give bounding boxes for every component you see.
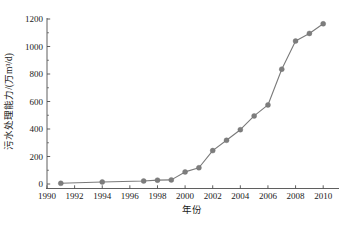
data-point-marker (169, 177, 174, 182)
data-point-marker (265, 102, 270, 107)
y-axis (47, 18, 50, 188)
data-point-marker (252, 113, 257, 118)
data-point-marker (196, 165, 201, 170)
y-tick-label: 0 (39, 179, 44, 189)
x-tick-label: 1994 (93, 191, 112, 201)
x-tick-label: 2008 (287, 191, 306, 201)
x-tick-label: 1990 (38, 191, 57, 201)
x-tick-label: 2010 (314, 191, 333, 201)
x-tick-label: 2004 (231, 191, 250, 201)
x-tick-label: 2006 (259, 191, 278, 201)
y-tick-label: 600 (30, 97, 44, 107)
y-tick-label: 200 (30, 152, 44, 162)
y-tick-label: 400 (30, 124, 44, 134)
x-tick-label: 2002 (204, 191, 222, 201)
chart-figure: 020040060080010001200 199019921994199619… (0, 0, 353, 232)
x-axis (46, 185, 339, 188)
data-point-marker (224, 138, 229, 143)
data-point-marker (183, 169, 188, 174)
x-tick-label: 1996 (121, 191, 140, 201)
y-tick-label: 1200 (25, 14, 44, 24)
x-tick-label: 2000 (176, 191, 195, 201)
data-point-marker (141, 178, 146, 183)
data-point-marker (238, 127, 243, 132)
series-markers (58, 21, 325, 186)
x-axis-tick-labels: 1990199219941996199820002002200420062008… (38, 191, 333, 201)
x-axis-title: 年份 (182, 204, 202, 215)
data-point-marker (307, 31, 312, 36)
data-point-marker (210, 148, 215, 153)
y-tick-label: 800 (30, 69, 44, 79)
data-point-marker (293, 39, 298, 44)
data-point-marker (155, 178, 160, 183)
data-point-marker (58, 181, 63, 186)
y-tick-label: 1000 (25, 42, 44, 52)
y-axis-title: 污水处理能力/(万m³/d) (3, 53, 15, 150)
x-tick-label: 1998 (148, 191, 167, 201)
data-point-marker (279, 67, 284, 72)
line-chart-canvas: 020040060080010001200 199019921994199619… (0, 0, 353, 232)
data-point-marker (100, 179, 105, 184)
x-tick-label: 1992 (66, 191, 84, 201)
y-axis-tick-labels: 020040060080010001200 (25, 14, 44, 189)
series-line-wastewater-capacity (61, 24, 323, 184)
data-point-marker (321, 21, 326, 26)
